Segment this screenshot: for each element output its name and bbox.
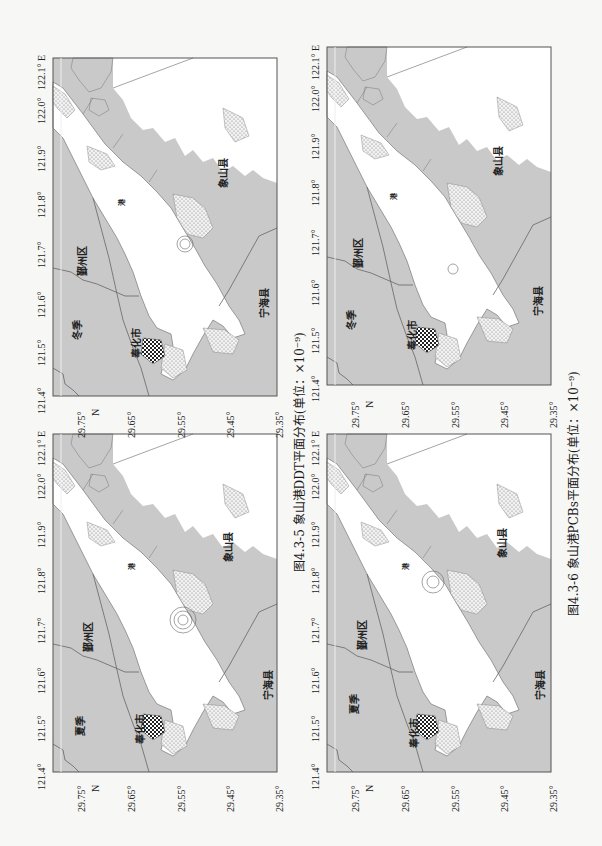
place-yinzhou: 鄞州区: [80, 622, 95, 652]
place-fenghua: 奉化市: [132, 714, 147, 744]
season-label: 冬季: [69, 320, 84, 340]
place-xiangshan: 象山县: [494, 528, 509, 558]
lon-tick: 121.8°: [36, 192, 47, 219]
map-pcb-winter: [327, 47, 551, 385]
place-ninghai: 宁海县: [530, 286, 545, 316]
lat-tick: 29.35°: [274, 412, 285, 439]
lon-tick: 122.0°: [36, 98, 47, 125]
lat-tick: 29.35°: [274, 786, 285, 813]
figure-caption-pcb: 图4.3-6 象山港PCBs平面分布(单位：×10⁻⁹): [564, 371, 581, 616]
lon-tick: 121.8°: [310, 180, 321, 207]
lon-tick: 121.7°: [36, 242, 47, 269]
season-label: 冬季: [343, 310, 358, 330]
lat-tick: 29.65°: [126, 786, 137, 813]
lon-tick: 121.8°: [36, 568, 47, 595]
lon-tick: 122.0°: [310, 86, 321, 113]
lat-tick: 29.65°: [400, 402, 411, 429]
lat-tick: 29.75°: [76, 786, 87, 813]
lon-tick: 122.1° E: [36, 55, 47, 90]
lat-axis-label: N: [90, 409, 101, 416]
lon-tick: 121.9°: [36, 146, 47, 173]
lat-tick: 29.55°: [176, 786, 187, 813]
map-graphic: [53, 58, 277, 396]
place-xiangshan: 象山县: [220, 532, 235, 562]
map-pcb-summer: [327, 434, 551, 772]
lon-tick: 121.6°: [36, 292, 47, 319]
lat-axis-label: N: [364, 785, 375, 792]
lon-tick: 121.4°: [36, 764, 47, 791]
map-graphic: [327, 47, 551, 385]
lon-tick: 121.9°: [310, 522, 321, 549]
lat-tick: 29.75°: [350, 786, 361, 813]
lat-tick: 29.65°: [126, 412, 137, 439]
place-yinzhou: 鄞州区: [350, 238, 365, 268]
place-ninghai: 宁海县: [532, 670, 547, 700]
lat-tick: 29.45°: [225, 786, 236, 813]
lon-tick: 121.7°: [36, 618, 47, 645]
place-xiangshan: 象山县: [490, 146, 505, 176]
lon-tick: 122.0°: [36, 474, 47, 501]
lon-tick: 121.7°: [310, 230, 321, 257]
lon-tick: 122.1° E: [310, 45, 321, 80]
lat-tick: 29.75°: [76, 412, 87, 439]
lon-tick: 121.4°: [310, 764, 321, 791]
lat-tick: 29.65°: [400, 786, 411, 813]
season-label: 夏季: [346, 694, 361, 714]
lon-tick: 121.9°: [310, 134, 321, 161]
place-fenghua: 奉化市: [128, 328, 143, 358]
place-ninghai: 宁海县: [256, 288, 271, 318]
lon-tick: 121.4°: [310, 376, 321, 403]
lon-tick: 121.8°: [310, 568, 321, 595]
lon-tick: 121.5°: [36, 340, 47, 367]
lon-tick: 121.5°: [36, 716, 47, 743]
lat-tick: 29.35°: [548, 402, 559, 429]
place-harbor: 港: [126, 563, 136, 570]
map-graphic: [327, 434, 551, 772]
lat-tick: 29.45°: [225, 412, 236, 439]
place-yinzhou: 鄞州区: [354, 620, 369, 650]
lon-tick: 121.9°: [36, 522, 47, 549]
lon-tick: 121.6°: [36, 668, 47, 695]
lat-axis-label: N: [364, 401, 375, 408]
place-harbor: 港: [400, 563, 410, 570]
place-fenghua: 奉化市: [406, 718, 421, 748]
lat-tick: 29.55°: [176, 412, 187, 439]
lon-tick: 122.1° E: [36, 431, 47, 466]
lon-tick: 121.4°: [36, 388, 47, 415]
place-xiangshan: 象山县: [215, 158, 230, 188]
lat-tick: 29.55°: [450, 786, 461, 813]
lon-tick: 121.6°: [310, 668, 321, 695]
lat-tick: 29.55°: [450, 402, 461, 429]
place-ninghai: 宁海县: [260, 670, 275, 700]
lat-tick: 29.45°: [499, 786, 510, 813]
lat-tick: 29.35°: [548, 786, 559, 813]
lon-tick: 121.6°: [310, 280, 321, 307]
lon-tick: 122.0°: [310, 474, 321, 501]
lon-tick: 121.5°: [310, 716, 321, 743]
lon-tick: 121.5°: [310, 328, 321, 355]
lat-tick: 29.75°: [350, 402, 361, 429]
map-ddt-winter: [53, 58, 277, 396]
figure-caption-ddt: 图4.3-5 象山港DDT平面分布(单位：×10⁻⁹): [290, 332, 307, 572]
lat-axis-label: N: [90, 785, 101, 792]
lon-tick: 121.7°: [310, 618, 321, 645]
lat-tick: 29.45°: [499, 402, 510, 429]
lon-tick: 122.1° E: [310, 431, 321, 466]
place-harbor: 港: [388, 193, 398, 200]
place-yinzhou: 鄞州区: [74, 246, 89, 276]
place-fenghua: 奉化市: [404, 320, 419, 350]
place-harbor: 港: [116, 199, 126, 206]
season-label: 夏季: [72, 716, 87, 736]
